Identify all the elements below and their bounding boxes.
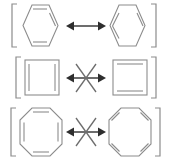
benzene-structure-b-svg [103, 0, 165, 52]
resonance-row-cyclooctatetraene [0, 104, 169, 161]
left-bracket-icon [11, 108, 16, 156]
arrow-head-left-icon [66, 74, 74, 83]
octagon-outline [20, 108, 62, 156]
cyclooctatetraene-structure-b [103, 104, 165, 161]
left-bracket-icon [16, 57, 21, 98]
double-bond-inner-2 [50, 13, 56, 26]
hexagon-outline [23, 5, 58, 46]
resonance-row-cyclobutadiene [0, 52, 169, 104]
square-outline [113, 60, 147, 95]
arrow-head-left-icon [66, 128, 74, 137]
cyclobutadiene-structure-b [103, 52, 165, 104]
cyclooctatetraene-structure-a-svg [8, 104, 70, 161]
arrow-head-left-icon [66, 22, 74, 31]
right-bracket-icon [151, 4, 156, 47]
hexagon-outline [110, 5, 145, 46]
benzene-structure-a-svg [8, 0, 70, 52]
cyclobutadiene-structure-b-svg [103, 52, 165, 104]
benzene-kekule-structure-b [103, 0, 165, 52]
square-outline [25, 60, 59, 95]
left-bracket-icon [12, 4, 17, 47]
resonance-row-benzene [0, 0, 169, 52]
cyclobutadiene-structure-a-svg [8, 52, 70, 104]
octagon-outline [109, 108, 151, 156]
cyclobutadiene-structure-a [8, 52, 70, 104]
benzene-kekule-structure-a [8, 0, 70, 52]
resonance-diagram [0, 0, 169, 161]
cyclooctatetraene-structure-b-svg [103, 104, 165, 161]
right-bracket-icon [155, 108, 160, 156]
right-bracket-icon [151, 57, 156, 98]
cyclooctatetraene-structure-a [8, 104, 70, 161]
double-bond-inner-1 [113, 13, 120, 26]
